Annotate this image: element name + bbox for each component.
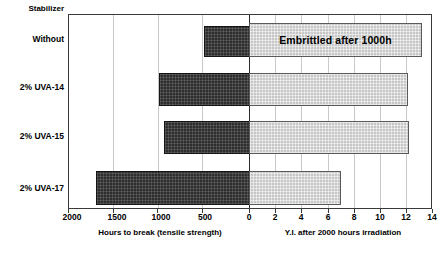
bar-group-without: Embrittled after 1000h: [69, 15, 431, 63]
bar-hours-uva-14: [159, 73, 250, 106]
tick-label-1500: 1500: [108, 212, 127, 222]
plot-area: Embrittled after 1000h: [68, 14, 432, 209]
bar-hours-without: [204, 26, 250, 57]
category-label-uva-14: 2% UVA-14: [0, 82, 64, 92]
tick-label-yi-4: 4: [299, 212, 304, 222]
bar-group-uva-17: [69, 161, 431, 210]
category-axis-title: Stabilizer: [0, 4, 64, 13]
chart-figure: Stabilizer Without 2% UVA-14 2% UVA-15 2…: [0, 0, 446, 263]
embrittled-annotation: Embrittled after 1000h: [279, 34, 392, 46]
right-axis-title: Y.I. after 2000 hours irradiation: [285, 228, 401, 237]
tick-label-yi-14: 14: [427, 212, 436, 222]
tick-label-yi-10: 10: [375, 212, 384, 222]
tick-label-500: 500: [198, 212, 212, 222]
tick-label-yi-2: 2: [273, 212, 278, 222]
category-label-uva-17: 2% UVA-17: [0, 183, 64, 193]
tick-label-yi-6: 6: [326, 212, 331, 222]
tick-label-1000: 1000: [152, 212, 171, 222]
category-label-without: Without: [0, 34, 64, 44]
bar-yi-uva-15: [249, 121, 409, 154]
tick-label-yi-12: 12: [401, 212, 410, 222]
tick-label-yi-0: 0: [247, 212, 252, 222]
tick-label-yi-8: 8: [352, 212, 357, 222]
bar-group-uva-14: [69, 63, 431, 112]
bar-hours-uva-17: [96, 171, 250, 205]
bar-yi-without: Embrittled after 1000h: [249, 23, 422, 57]
bar-yi-uva-14: [249, 73, 408, 106]
bar-yi-uva-17: [249, 171, 341, 205]
bar-group-uva-15: [69, 112, 431, 161]
left-axis-title: Hours to break (tensile strength): [98, 228, 222, 237]
tick-label-2000: 2000: [63, 212, 82, 222]
category-label-uva-15: 2% UVA-15: [0, 131, 64, 141]
bar-hours-uva-15: [164, 121, 250, 154]
